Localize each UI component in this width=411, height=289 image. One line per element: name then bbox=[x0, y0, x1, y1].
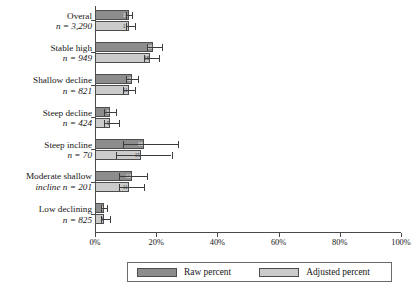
error-bar-line bbox=[147, 47, 162, 48]
error-bar-cap-high bbox=[110, 216, 111, 223]
legend-swatch-adjusted-percent bbox=[259, 268, 299, 277]
error-bar-line bbox=[123, 144, 178, 145]
category-label: Shallow declinen = 821 bbox=[0, 75, 92, 96]
error-bar-line bbox=[126, 26, 135, 27]
error-bar-cap-high bbox=[178, 141, 179, 148]
legend-label-raw-percent: Raw percent bbox=[184, 267, 231, 277]
category-sample-size: n = 70 bbox=[0, 150, 92, 161]
error-bar-line bbox=[119, 187, 143, 188]
error-bar-cap-low bbox=[123, 141, 124, 148]
error-bar-cap-high bbox=[138, 76, 139, 83]
error-bar-cap-low bbox=[126, 12, 127, 19]
category-sample-size: n = 3,290 bbox=[0, 21, 92, 32]
error-bar-cap-high bbox=[135, 87, 136, 94]
category-label-column: Overaln = 3,290Stable highn = 949Shallow… bbox=[0, 0, 92, 232]
error-bar-line bbox=[144, 58, 159, 59]
x-tick-mark bbox=[95, 233, 96, 237]
category-sample-size: n = 949 bbox=[0, 53, 92, 64]
error-bar-cap-low bbox=[101, 216, 102, 223]
category-label: Stable highn = 949 bbox=[0, 43, 92, 64]
x-tick-label: 80% bbox=[332, 238, 347, 247]
error-bar-cap-low bbox=[119, 173, 120, 180]
x-tick-label: 20% bbox=[149, 238, 164, 247]
x-tick-mark bbox=[340, 233, 341, 237]
error-bar-line bbox=[104, 112, 116, 113]
category-sample-size: n = 424 bbox=[0, 118, 92, 129]
error-bar-line bbox=[119, 176, 147, 177]
category-name: Stable high bbox=[0, 43, 92, 54]
bar-adjusted-percent bbox=[95, 53, 150, 63]
category-name: Moderate shallow bbox=[0, 171, 92, 182]
error-bar-line bbox=[101, 219, 110, 220]
category-name: Low declining bbox=[0, 204, 92, 215]
x-tick-mark bbox=[279, 233, 280, 237]
category-label: Overaln = 3,290 bbox=[0, 11, 92, 32]
category-sample-size: n = 821 bbox=[0, 86, 92, 97]
error-bar-cap-high bbox=[132, 12, 133, 19]
category-label: Steep declinen = 424 bbox=[0, 108, 92, 129]
error-bar-cap-high bbox=[135, 23, 136, 30]
error-bar-cap-high bbox=[116, 109, 117, 116]
error-bar-cap-low bbox=[126, 76, 127, 83]
category-label: Low decliningn = 825 bbox=[0, 204, 92, 225]
error-bar-line bbox=[104, 123, 119, 124]
x-tick-label: 0% bbox=[89, 238, 100, 247]
error-bar-cap-low bbox=[104, 120, 105, 127]
error-bar-cap-high bbox=[119, 120, 120, 127]
error-bar-cap-low bbox=[144, 55, 145, 62]
error-bar-cap-low bbox=[104, 109, 105, 116]
error-bar-line bbox=[126, 79, 138, 80]
error-bar-cap-low bbox=[147, 44, 148, 51]
error-bar-line bbox=[116, 155, 171, 156]
error-bar-cap-high bbox=[162, 44, 163, 51]
error-bar-cap-high bbox=[144, 184, 145, 191]
bar-raw-percent bbox=[95, 42, 153, 52]
category-name: Steep decline bbox=[0, 108, 92, 119]
x-tick-label: 100% bbox=[391, 238, 411, 247]
error-bar-cap-high bbox=[107, 205, 108, 212]
error-bar-cap-high bbox=[172, 152, 173, 159]
category-label: Moderate shallowincline n = 201 bbox=[0, 171, 92, 192]
x-tick-mark bbox=[217, 233, 218, 237]
error-bar-cap-high bbox=[147, 173, 148, 180]
error-bar-cap-low bbox=[116, 152, 117, 159]
legend-swatch-raw-percent bbox=[137, 268, 177, 277]
x-tick-label: 60% bbox=[271, 238, 286, 247]
error-bar-line bbox=[123, 90, 135, 91]
plot-area: 0%20%40%60%80%100% 111119181211551615121… bbox=[95, 6, 401, 232]
chart-legend: Raw percent Adjusted percent bbox=[127, 262, 392, 282]
error-bar-cap-low bbox=[119, 184, 120, 191]
category-name: Shallow decline bbox=[0, 75, 92, 86]
legend-label-adjusted-percent: Adjusted percent bbox=[306, 267, 370, 277]
x-tick-mark bbox=[401, 233, 402, 237]
error-bar-cap-low bbox=[101, 205, 102, 212]
category-sample-size: n = 825 bbox=[0, 215, 92, 226]
x-tick-mark bbox=[156, 233, 157, 237]
category-sample-size: incline n = 201 bbox=[0, 182, 92, 193]
x-axis-line bbox=[95, 232, 401, 233]
error-bar-cap-high bbox=[159, 55, 160, 62]
category-label: Steep inclinen = 70 bbox=[0, 140, 92, 161]
error-bar-cap-low bbox=[126, 23, 127, 30]
error-bar-cap-low bbox=[123, 87, 124, 94]
category-name: Overal bbox=[0, 11, 92, 22]
category-name: Steep incline bbox=[0, 140, 92, 151]
x-tick-label: 40% bbox=[210, 238, 225, 247]
